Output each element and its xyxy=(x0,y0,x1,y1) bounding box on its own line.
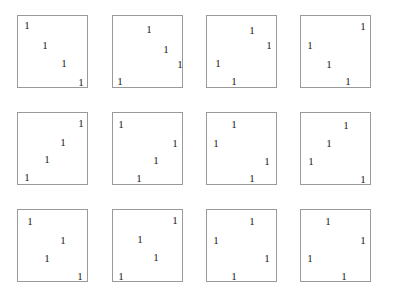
numeral-glyph: 1 xyxy=(231,119,237,130)
numeral-glyph: 1 xyxy=(42,40,48,51)
numeral-glyph: 1 xyxy=(163,44,169,55)
numeral-glyph: 1 xyxy=(213,138,219,149)
numeral-glyph: 1 xyxy=(231,271,237,282)
numeral-glyph: 1 xyxy=(308,156,314,167)
numeral-glyph: 1 xyxy=(118,119,124,130)
numeral-glyph: 1 xyxy=(118,271,124,282)
numeral-glyph: 1 xyxy=(24,20,30,31)
stimulus-panel[interactable]: 1111 xyxy=(206,209,277,282)
numeral-glyph: 1 xyxy=(249,173,255,184)
stimulus-panel[interactable]: 1111 xyxy=(206,15,277,88)
stimulus-panel[interactable]: 1111 xyxy=(300,112,371,185)
stimulus-panel[interactable]: 1111 xyxy=(206,112,277,185)
numeral-glyph: 1 xyxy=(78,77,84,88)
numeral-glyph: 1 xyxy=(360,21,366,32)
numeral-glyph: 1 xyxy=(136,173,142,184)
numeral-glyph: 1 xyxy=(60,235,66,246)
numeral-glyph: 1 xyxy=(60,137,66,148)
stimulus-panel[interactable]: 1111 xyxy=(112,209,183,282)
numeral-glyph: 1 xyxy=(24,172,30,183)
numeral-glyph: 1 xyxy=(231,76,237,87)
numeral-glyph: 1 xyxy=(266,40,272,51)
stimulus-panel[interactable]: 1111 xyxy=(300,15,371,88)
numeral-glyph: 1 xyxy=(307,40,313,51)
numeral-glyph: 1 xyxy=(249,25,255,36)
numeral-glyph: 1 xyxy=(307,253,313,264)
numeral-glyph: 1 xyxy=(78,118,84,129)
numeral-glyph: 1 xyxy=(177,59,183,70)
numeral-glyph: 1 xyxy=(44,154,50,165)
numeral-glyph: 1 xyxy=(77,271,83,282)
numeral-glyph: 1 xyxy=(326,59,332,70)
stimulus-panel[interactable]: 1111 xyxy=(112,15,183,88)
numeral-glyph: 1 xyxy=(341,271,347,282)
numeral-glyph: 1 xyxy=(153,252,159,263)
stimulus-panel[interactable]: 1111 xyxy=(300,209,371,282)
stimulus-panel[interactable]: 1111 xyxy=(112,112,183,185)
numeral-glyph: 1 xyxy=(137,234,143,245)
numeral-glyph: 1 xyxy=(117,76,123,87)
stimulus-grid: 1111111111111111111111111111111111111111… xyxy=(0,0,393,304)
numeral-glyph: 1 xyxy=(360,235,366,246)
numeral-glyph: 1 xyxy=(146,24,152,35)
numeral-glyph: 1 xyxy=(360,174,366,185)
numeral-glyph: 1 xyxy=(213,235,219,246)
numeral-glyph: 1 xyxy=(249,216,255,227)
stimulus-panel[interactable]: 1111 xyxy=(17,112,88,185)
numeral-glyph: 1 xyxy=(27,216,33,227)
numeral-glyph: 1 xyxy=(61,58,67,69)
numeral-glyph: 1 xyxy=(44,253,50,264)
stimulus-panel[interactable]: 1111 xyxy=(17,209,88,282)
numeral-glyph: 1 xyxy=(172,138,178,149)
numeral-glyph: 1 xyxy=(153,155,159,166)
numeral-glyph: 1 xyxy=(326,138,332,149)
numeral-glyph: 1 xyxy=(215,58,221,69)
numeral-glyph: 1 xyxy=(264,156,270,167)
stimulus-panel[interactable]: 1111 xyxy=(17,15,88,88)
numeral-glyph: 1 xyxy=(345,76,351,87)
numeral-glyph: 1 xyxy=(264,253,270,264)
numeral-glyph: 1 xyxy=(325,216,331,227)
numeral-glyph: 1 xyxy=(343,120,349,131)
numeral-glyph: 1 xyxy=(172,215,178,226)
